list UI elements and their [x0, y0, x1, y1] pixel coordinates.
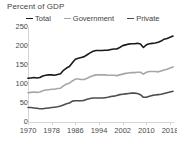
series-line-government [28, 67, 173, 93]
series-line-private [28, 91, 173, 108]
chart-container: Percent of GDP Total Government Private … [0, 0, 177, 142]
chart-series-layer [0, 0, 177, 142]
